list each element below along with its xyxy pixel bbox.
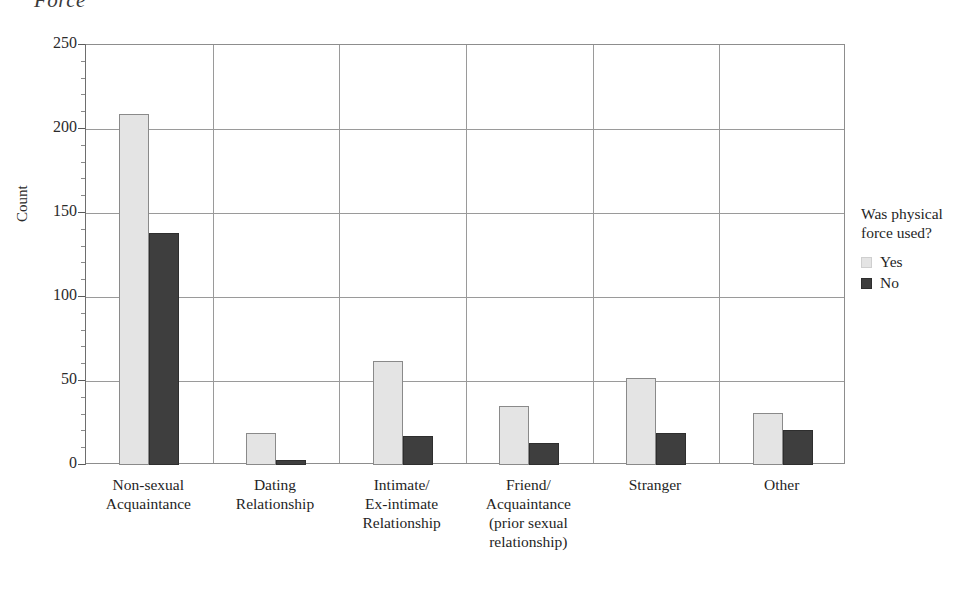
bar-yes-2 [373,361,403,465]
y-minor-tick [81,61,85,62]
panel-divider-3 [466,45,467,463]
x-category-label-2: Intimate/ Ex-intimate Relationship [331,475,472,532]
gridline-100 [86,297,844,298]
y-minor-tick [81,145,85,146]
legend-items: YesNo [861,254,973,291]
y-minor-tick [81,330,85,331]
legend-item-no: No [861,275,973,291]
y-minor-tick [81,162,85,163]
bar-no-3 [529,443,559,465]
legend-item-yes: Yes [861,254,973,270]
y-minor-tick [81,430,85,431]
legend-title-line2: force used? [861,223,973,242]
panel-divider-5 [719,45,720,463]
bar-yes-1 [246,433,276,465]
legend-swatch-yes-icon [861,257,872,268]
y-axis-line [85,44,86,465]
y-minor-tick [81,313,85,314]
y-minor-tick [81,111,85,112]
legend: Was physical force used? YesNo [861,204,973,296]
y-minor-tick [81,397,85,398]
gridline-150 [86,213,844,214]
bar-no-0 [149,233,179,465]
plot-area [85,44,845,464]
y-minor-tick [81,229,85,230]
bar-no-2 [403,436,433,465]
legend-swatch-no-icon [861,278,872,289]
panel-divider-1 [213,45,214,463]
x-category-label-5: Other [711,475,852,494]
y-minor-tick [81,94,85,95]
y-minor-tick [81,246,85,247]
legend-title: Was physical force used? [861,204,973,242]
y-minor-tick [81,195,85,196]
y-tick-label-200: 200 [7,118,77,136]
gridline-50 [86,381,844,382]
y-minor-tick [81,279,85,280]
panel-divider-4 [593,45,594,463]
legend-title-line1: Was physical [861,204,973,223]
y-minor-tick [81,78,85,79]
y-tick-label-50: 50 [7,370,77,388]
y-tick-150 [78,212,85,213]
legend-label-yes: Yes [880,254,903,270]
x-category-label-3: Friend/ Acquaintance (prior sexual relat… [458,475,599,551]
legend-label-no: No [880,275,899,291]
y-minor-tick [81,363,85,364]
y-minor-tick [81,447,85,448]
bar-yes-4 [626,378,656,465]
y-tick-label-0: 0 [7,454,77,472]
bar-chart: 050100150200250 Count Non-sexual Acquain… [0,0,976,604]
y-minor-tick [81,262,85,263]
bar-yes-3 [499,406,529,465]
x-category-label-4: Stranger [585,475,726,494]
y-minor-tick [81,346,85,347]
panel-divider-2 [339,45,340,463]
bar-no-1 [276,460,306,465]
y-tick-200 [78,128,85,129]
bar-yes-5 [753,413,783,465]
bar-no-4 [656,433,686,465]
y-axis-title: Count [14,185,31,222]
y-tick-100 [78,296,85,297]
y-tick-50 [78,380,85,381]
y-tick-label-250: 250 [7,34,77,52]
y-tick-250 [78,44,85,45]
bar-no-5 [783,430,813,465]
bar-yes-0 [119,114,149,465]
y-tick-0 [78,464,85,465]
y-minor-tick [81,178,85,179]
y-tick-label-100: 100 [7,286,77,304]
x-category-label-1: Dating Relationship [205,475,346,513]
y-minor-tick [81,414,85,415]
gridline-200 [86,129,844,130]
x-category-label-0: Non-sexual Acquaintance [78,475,219,513]
